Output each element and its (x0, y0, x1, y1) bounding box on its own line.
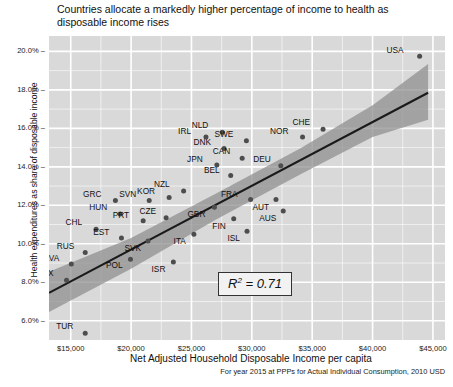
data-point-label: CHL (65, 217, 82, 227)
data-point-marker[interactable] (231, 216, 236, 221)
data-point-marker[interactable] (164, 215, 169, 220)
data-point-label: SWE (214, 129, 233, 139)
data-point-marker[interactable] (147, 198, 152, 203)
data-point-marker[interactable] (128, 257, 133, 262)
x-tick-label: $30,000 (238, 344, 265, 353)
x-axis-label: Net Adjusted Household Disposable Income… (49, 353, 453, 364)
x-tick-label: $45,000 (419, 344, 446, 353)
y-tick-label: 18.0% – (17, 85, 45, 94)
data-point-label: ISL (228, 233, 241, 243)
chart-footnote: For year 2015 at PPPs for Actual Individ… (49, 367, 445, 376)
data-point-label: SVK (124, 243, 141, 253)
data-point-marker[interactable] (141, 218, 146, 223)
data-point-marker[interactable] (245, 229, 250, 234)
data-point-marker[interactable] (244, 138, 249, 143)
data-point-marker[interactable] (273, 197, 278, 202)
x-tick-label: $25,000 (178, 344, 205, 353)
data-point-label: NZL (154, 179, 170, 189)
data-point-label: PRT (113, 210, 129, 220)
data-point-marker[interactable] (181, 188, 186, 193)
data-point-label: ISR (152, 264, 166, 274)
data-point-marker[interactable] (281, 209, 286, 214)
data-point-marker[interactable] (300, 135, 305, 140)
data-point-marker[interactable] (64, 278, 69, 283)
data-point-label: AUT (252, 202, 269, 212)
data-point-marker[interactable] (113, 198, 118, 203)
data-point-label: POL (106, 260, 123, 270)
data-point-label: JPN (187, 154, 203, 164)
data-point-label: AUS (259, 213, 277, 223)
data-point-marker[interactable] (83, 331, 88, 336)
r2-value: = 0.71 (242, 276, 282, 291)
data-point-label: FIN (212, 221, 225, 231)
data-point-marker[interactable] (240, 156, 245, 161)
chart-title: Countries allocate a markedly higher per… (57, 3, 397, 28)
y-axis-ticks: 6.0% –8.0% –10.0% –12.0% –14.0% –16.0% –… (0, 36, 45, 340)
data-point-marker[interactable] (212, 205, 217, 210)
x-tick-label: $40,000 (359, 344, 386, 353)
x-tick-label: $20,000 (117, 344, 144, 353)
y-tick-label: 14.0% – (17, 162, 45, 171)
data-point-label: MEX (49, 268, 54, 278)
data-point-label: ITA (174, 236, 187, 246)
x-tick-label: $35,000 (298, 344, 325, 353)
data-point-label: HUN (89, 202, 107, 212)
data-point-label: DEU (253, 154, 271, 164)
r-squared-annotation: R2 = 0.71 (218, 272, 292, 296)
data-point-label: GBR (187, 209, 205, 219)
data-point-label: DNK (194, 137, 212, 147)
r2-symbol: R (228, 276, 237, 291)
data-point-label: RUS (57, 241, 75, 251)
y-tick-label: 12.0% – (17, 200, 45, 209)
data-point-label: CHE (293, 117, 311, 127)
data-point-marker[interactable] (167, 195, 172, 200)
y-tick-label: 6.0% – (21, 316, 45, 325)
data-point-label: SVN (119, 189, 136, 199)
data-point-marker[interactable] (417, 54, 422, 59)
data-point-label: LVA (49, 253, 60, 263)
data-point-marker[interactable] (83, 250, 88, 255)
data-point-label: EST (93, 227, 109, 237)
data-point-label: GRC (83, 189, 101, 199)
data-point-marker[interactable] (278, 163, 283, 168)
data-point-label: USA (387, 45, 405, 55)
data-point-label: NLD (192, 120, 209, 130)
data-point-label: FRA (221, 189, 238, 199)
data-point-marker[interactable] (146, 238, 151, 243)
data-point-label: CAN (213, 146, 231, 156)
data-point-label: CZE (139, 206, 156, 216)
data-point-label: NOR (270, 126, 288, 136)
data-point-label: IRL (178, 126, 191, 136)
data-point-label: BEL (204, 165, 220, 175)
data-point-marker[interactable] (321, 127, 326, 132)
data-point-label: KOR (137, 186, 155, 196)
y-tick-label: 8.0% – (21, 277, 45, 286)
data-point-marker[interactable] (228, 173, 233, 178)
data-point-marker[interactable] (191, 232, 196, 237)
data-point-marker[interactable] (69, 262, 74, 267)
chart-root: Countries allocate a markedly higher per… (0, 0, 453, 387)
y-tick-label: 20.0% – (17, 46, 45, 55)
y-tick-label: 16.0% – (17, 123, 45, 132)
data-point-label: TUR (56, 321, 73, 331)
data-point-marker[interactable] (119, 236, 124, 241)
data-point-marker[interactable] (171, 260, 176, 265)
y-tick-label: 10.0% – (17, 239, 45, 248)
x-tick-label: $15,000 (57, 344, 84, 353)
